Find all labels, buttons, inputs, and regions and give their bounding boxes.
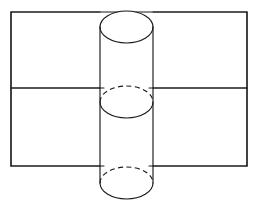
- figure-canvas: Cylinder intersecting a plane A line dra…: [0, 0, 259, 208]
- cylinder-group: [100, 11, 153, 199]
- cylinder-body-fill: [100, 27, 153, 183]
- geometry-diagram: Cylinder intersecting a plane A line dra…: [0, 0, 259, 208]
